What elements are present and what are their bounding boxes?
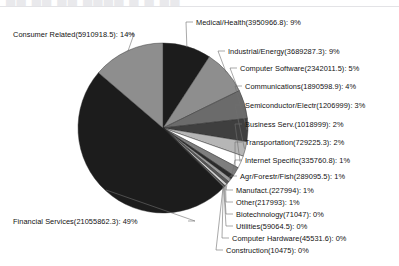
- pie-chart-canvas: [0, 0, 399, 266]
- label-internet-specific: Internet Specific(335760.8): 1%: [245, 156, 350, 165]
- pie-slices-group: [78, 43, 248, 213]
- label-industrial-energy: Industrial/Energy(3689287.3): 9%: [228, 47, 340, 56]
- leader-line: [226, 182, 233, 190]
- label-biotechnology: Biotechnology(71047): 0%: [236, 210, 324, 219]
- label-utilities: Utilities(59064.5): 0%: [236, 222, 307, 231]
- pie-chart-page: ██ ██ ██ ████ █ █ ██ Consumer Related(59…: [0, 0, 399, 266]
- leader-line: [186, 22, 193, 47]
- label-medical-health: Medical/Health(3950966.8): 9%: [196, 18, 301, 27]
- leader-line: [224, 186, 233, 226]
- label-manufact: Manufact.(227994): 1%: [236, 186, 314, 195]
- label-business-serv: Business Serv.(1018999): 2%: [245, 120, 344, 129]
- label-consumer-related: Consumer Related(5910918.5): 14%: [13, 30, 135, 39]
- label-agr-forestr-fish: Agr/Forestr/Fish(289095.5): 1%: [240, 172, 345, 181]
- label-computer-hardware: Computer Hardware(45531.6): 0%: [232, 234, 346, 243]
- leader-line: [216, 187, 223, 250]
- label-communications: Communications(1890598.9): 4%: [245, 82, 356, 91]
- label-computer-software: Computer Software(2342011.5): 5%: [240, 64, 359, 73]
- label-semiconductor: Semiconductor/Electr(1206999): 3%: [245, 101, 365, 110]
- label-construction: Construction(10475): 0%: [226, 246, 309, 255]
- label-financial-services: Financial Services(21055862.3): 49%: [13, 217, 138, 226]
- label-transportation: Transportation(729225.3): 2%: [245, 138, 344, 147]
- label-other: Other(217993): 1%: [236, 198, 300, 207]
